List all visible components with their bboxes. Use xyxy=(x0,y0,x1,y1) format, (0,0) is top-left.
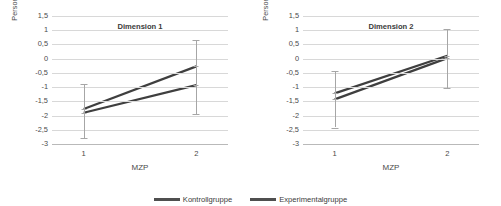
x-axis-line xyxy=(52,144,228,145)
gridline xyxy=(303,116,479,117)
y-axis-tick-label: -3 xyxy=(292,140,299,147)
legend-line-swatch xyxy=(250,198,276,200)
y-axis-tick-label: 0 xyxy=(295,55,299,62)
error-bar-cap-upper xyxy=(444,29,451,30)
y-axis-tick-label: -2 xyxy=(41,112,48,119)
x-axis-title-left: MZP xyxy=(132,163,149,172)
error-bar-mean-tick xyxy=(81,113,86,114)
y-axis-tick-label: 0,5 xyxy=(38,41,48,48)
y-axis-tick-label: -3 xyxy=(41,140,48,147)
series-lines-dimension-2 xyxy=(303,16,479,144)
gridline xyxy=(52,44,228,45)
legend-item[interactable]: Kontrollgruppe xyxy=(154,195,232,204)
gridline xyxy=(303,73,479,74)
error-bar-mean-tick xyxy=(445,58,450,59)
x-axis-title-right: MZP xyxy=(383,163,400,172)
gridline xyxy=(52,130,228,131)
chart-panel-dimension-2: Personenparameter Dimension 2 MZP 1,510,… xyxy=(251,0,501,180)
error-bar xyxy=(84,84,85,139)
gridline xyxy=(52,16,228,17)
gridline xyxy=(303,87,479,88)
y-axis-tick-label: -1,5 xyxy=(286,98,299,105)
error-bar-mean-tick xyxy=(194,66,199,67)
y-axis-title-right: Personenparameter xyxy=(261,0,273,36)
y-axis-tick-label: -1 xyxy=(292,83,299,90)
x-axis-tick-label: 1 xyxy=(82,149,86,158)
gridline xyxy=(303,130,479,131)
gridline xyxy=(303,16,479,17)
series-lines-dimension-1 xyxy=(52,16,228,144)
gridline xyxy=(52,87,228,88)
chart-panel-dimension-1: Personenparameter Dimension 1 MZP 1,510,… xyxy=(0,0,250,180)
y-axis-tick-label: 0 xyxy=(44,55,48,62)
plot-area-dimension-2: Dimension 2 MZP 1,510,50-0,5-1-1,5-2-2,5… xyxy=(303,16,479,144)
x-axis-tick-label: 2 xyxy=(445,149,449,158)
y-axis-tick-label: 0,5 xyxy=(289,41,299,48)
y-axis-tick-label: -1,5 xyxy=(35,98,48,105)
y-axis-tick-label: -0,5 xyxy=(35,69,48,76)
y-axis-tick-label: 1 xyxy=(44,27,48,34)
gridline xyxy=(52,116,228,117)
error-bar-cap-lower xyxy=(193,114,200,115)
gridline xyxy=(303,59,479,60)
error-bar-cap-lower xyxy=(331,128,338,129)
error-bar-cap-upper xyxy=(331,71,338,72)
error-bar-mean-tick xyxy=(445,56,450,57)
legend-label: Kontrollgruppe xyxy=(183,195,232,204)
x-axis-tick-label: 1 xyxy=(333,149,337,158)
gridline xyxy=(303,30,479,31)
y-axis-tick-label: 1,5 xyxy=(38,12,48,19)
chart-legend: KontrollgruppeExperimentalgruppe xyxy=(0,195,501,204)
error-bar-mean-tick xyxy=(81,109,86,110)
error-bar-cap-lower xyxy=(444,88,451,89)
error-bar-cap-lower xyxy=(80,138,87,139)
gridline xyxy=(303,44,479,45)
error-bar-cap-upper xyxy=(193,40,200,41)
error-bar-mean-tick xyxy=(332,93,337,94)
gridline xyxy=(52,73,228,74)
y-axis-tick-label: -2,5 xyxy=(286,126,299,133)
series-line xyxy=(335,58,448,99)
y-axis-tick-label: -0,5 xyxy=(286,69,299,76)
gridline xyxy=(52,30,228,31)
y-axis-tick-label: 1,5 xyxy=(289,12,299,19)
y-axis-tick-label: 1 xyxy=(295,27,299,34)
y-axis-title-left: Personenparameter xyxy=(10,0,22,36)
series-line xyxy=(84,85,197,113)
x-axis-tick-label: 2 xyxy=(194,149,198,158)
y-axis-tick-label: -2,5 xyxy=(35,126,48,133)
y-axis-tick-label: -2 xyxy=(292,112,299,119)
x-axis-line xyxy=(303,144,479,145)
error-bar xyxy=(196,40,197,115)
legend-item[interactable]: Experimentalgruppe xyxy=(250,195,347,204)
error-bar-cap-upper xyxy=(80,84,87,85)
legend-line-swatch xyxy=(154,198,180,200)
legend-label: Experimentalgruppe xyxy=(279,195,347,204)
y-axis-tick-label: -1 xyxy=(41,83,48,90)
plot-area-dimension-1: Dimension 1 MZP 1,510,50-0,5-1-1,5-2-2,5… xyxy=(52,16,228,144)
error-bar-mean-tick xyxy=(194,85,199,86)
gridline xyxy=(52,59,228,60)
gridline xyxy=(52,101,228,102)
error-bar-mean-tick xyxy=(332,99,337,100)
gridline xyxy=(303,101,479,102)
figure-container: Personenparameter Dimension 1 MZP 1,510,… xyxy=(0,0,501,206)
